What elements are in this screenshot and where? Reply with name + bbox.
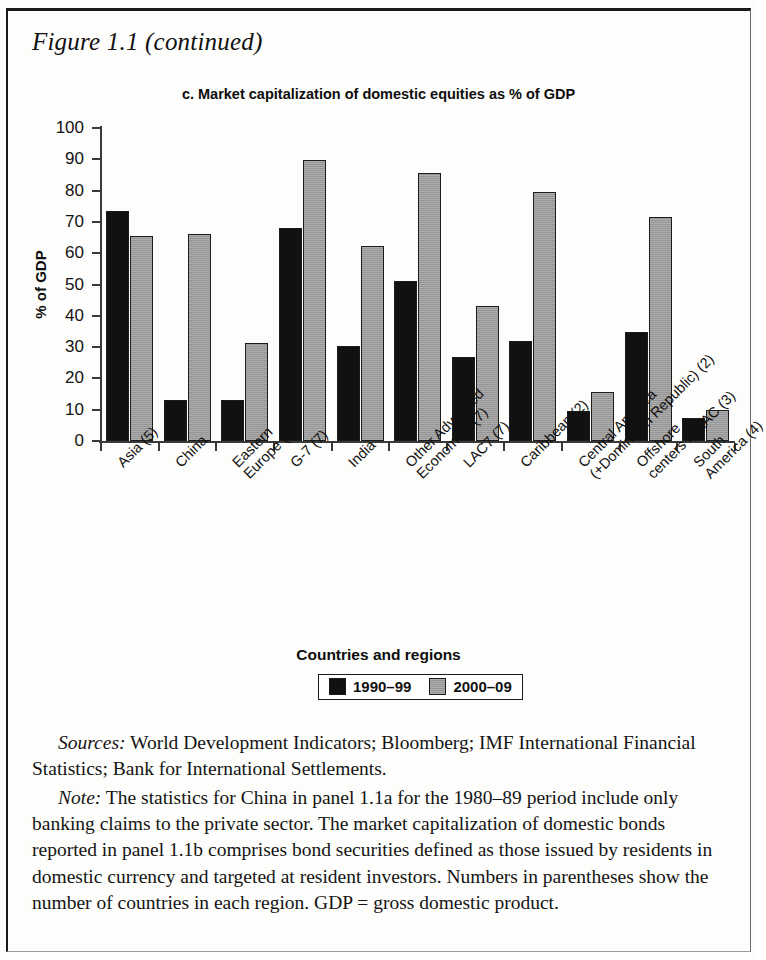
x-axis-tick [388,443,390,451]
bar-1990-99 [509,341,532,441]
bar-1990-99 [164,400,187,441]
sources-label: Sources: [58,732,126,753]
bar-1990-99 [394,281,417,441]
figure-label: Figure 1.1 (continued) [32,28,263,56]
legend-item: 1990–99 [329,678,411,695]
bar-group [394,128,446,441]
x-axis-tick [561,443,563,451]
legend-label: 1990–99 [353,678,411,695]
bar-group [567,128,619,441]
legend-item: 2000–09 [429,678,511,695]
bar-group [509,128,561,441]
x-axis-tick [331,443,333,451]
x-axis-tick [215,443,217,451]
y-axis-tick-label: 10 [28,401,84,418]
x-axis-title: Countries and regions [0,646,757,664]
bar-1990-99 [337,346,360,441]
bar-1990-99 [221,400,244,441]
chart-legend: 1990–992000–09 [318,674,523,700]
legend-swatch-icon [429,678,446,695]
note-paragraph: Note: The statistics for China in panel … [32,785,722,917]
bar-group [279,128,331,441]
sources-text: World Development Indicators; Bloomberg;… [32,732,696,779]
bar-2000-09 [303,160,326,441]
bar-2000-09 [418,173,441,441]
chart-container: c. Market capitalization of domestic equ… [0,86,757,696]
y-axis-tick-label: 80 [28,182,84,199]
x-axis-tick [100,443,102,451]
y-axis-tick-label: 60 [28,244,84,261]
x-axis-tick [503,443,505,451]
y-axis-tick-label: 90 [28,150,84,167]
y-axis-tick-label: 20 [28,369,84,386]
legend-swatch-icon [329,678,346,695]
bar-1990-99 [279,228,302,441]
figure-notes: Sources: World Development Indicators; B… [32,730,722,918]
note-text: The statistics for China in panel 1.1a f… [32,787,712,913]
x-axis-tick [158,443,160,451]
bar-2000-09 [188,234,211,441]
bar-1990-99 [106,211,129,441]
y-axis-tick-label: 30 [28,338,84,355]
bar-2000-09 [361,246,384,441]
y-axis-tick-label: 100 [28,119,84,136]
bar-2000-09 [130,236,153,441]
bar-2000-09 [533,192,556,441]
y-axis-tick-label: 0 [28,432,84,449]
bar-group [164,128,216,441]
y-axis-tick-label: 50 [28,276,84,293]
chart-title: c. Market capitalization of domestic equ… [0,86,757,102]
sources-paragraph: Sources: World Development Indicators; B… [32,730,722,783]
y-axis-tick-label: 40 [28,307,84,324]
bar-group [221,128,273,441]
note-label: Note: [58,787,101,808]
legend-label: 2000–09 [453,678,511,695]
bar-group [106,128,158,441]
y-axis-tick-label: 70 [28,213,84,230]
bar-group [337,128,389,441]
